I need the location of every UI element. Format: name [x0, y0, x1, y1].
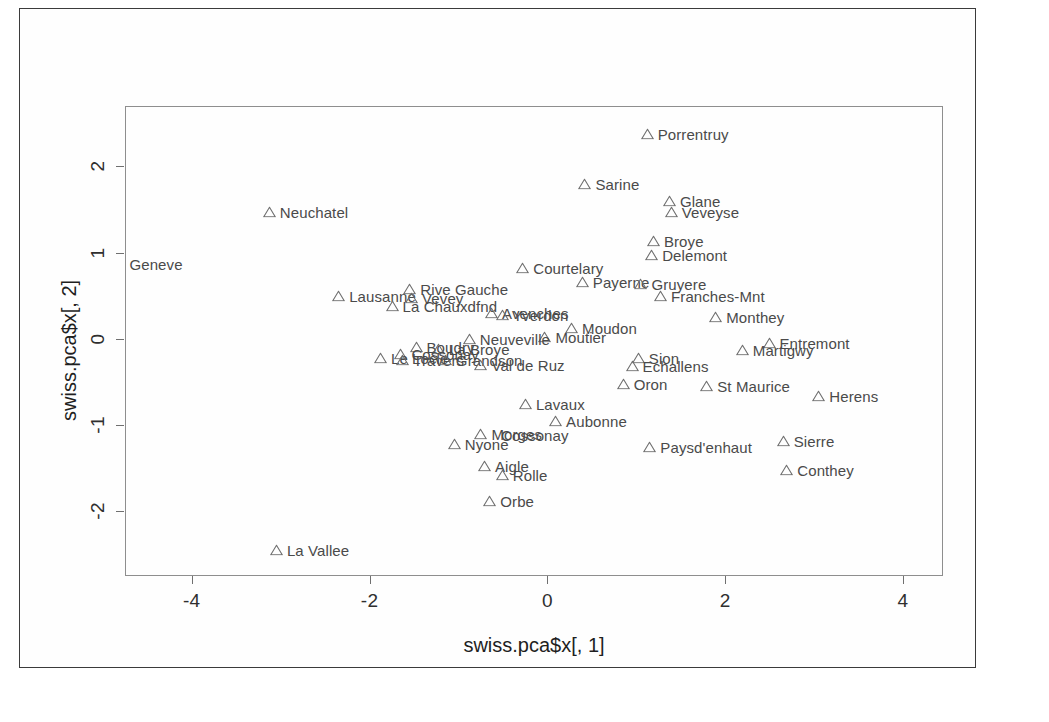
y-tick-mark: [116, 339, 124, 340]
data-point[interactable]: La Vallee: [270, 543, 349, 558]
x-tick-mark: [192, 576, 193, 584]
y-tick-mark: [116, 425, 124, 426]
x-tick-label: 4: [898, 590, 909, 612]
data-point-label: Delemont: [662, 248, 727, 263]
data-point-label: Nyone: [465, 437, 509, 452]
data-point[interactable]: Orbe: [483, 493, 534, 508]
triangle-marker-icon: [576, 276, 589, 287]
figure-frame: -4-2024 -2-1012 PorrentruySarineGlaneVev…: [19, 8, 976, 668]
data-point-label: Geneve: [129, 256, 182, 271]
data-point-label: Lavaux: [536, 396, 585, 411]
data-point-label: Moutier: [555, 330, 606, 345]
triangle-marker-icon: [647, 236, 660, 247]
triangle-marker-icon: [478, 461, 491, 472]
data-point-label: Yverdon: [513, 307, 569, 322]
data-point[interactable]: Oron: [617, 376, 668, 391]
data-point[interactable]: Rolle: [496, 468, 548, 483]
triangle-marker-icon: [519, 398, 532, 409]
data-point[interactable]: Nyone: [448, 437, 509, 452]
triangle-marker-icon: [332, 290, 345, 301]
plot-area[interactable]: -4-2024 -2-1012 PorrentruySarineGlaneVev…: [20, 9, 975, 667]
triangle-marker-icon: [665, 207, 678, 218]
data-point[interactable]: Echallens: [626, 359, 709, 374]
data-point[interactable]: Martigwy: [736, 343, 814, 358]
triangle-marker-icon: [496, 309, 509, 320]
data-point[interactable]: Geneve: [129, 256, 182, 271]
data-point[interactable]: Sarine: [578, 176, 639, 191]
triangle-marker-icon: [448, 439, 461, 450]
y-tick-mark: [116, 511, 124, 512]
x-tick-label: 2: [720, 590, 731, 612]
data-point[interactable]: St Maurice: [700, 379, 790, 394]
y-axis-title: swiss.pca$x[, 2]: [58, 280, 81, 421]
data-point[interactable]: Monthey: [709, 310, 784, 325]
triangle-marker-icon: [496, 470, 509, 481]
triangle-marker-icon: [777, 435, 790, 446]
data-point[interactable]: Franches-Mnt: [654, 288, 765, 303]
data-point-label: La Chauxdfnd: [403, 299, 498, 314]
data-point[interactable]: La Chauxdfnd: [386, 299, 498, 314]
triangle-marker-icon: [709, 312, 722, 323]
data-point[interactable]: Paysd'enhaut: [643, 439, 752, 454]
triangle-marker-icon: [641, 128, 654, 139]
x-axis-title: swiss.pca$x[, 1]: [463, 634, 604, 657]
triangle-marker-icon: [474, 359, 487, 370]
data-point-label: Sierre: [794, 433, 835, 448]
x-tick-label: -4: [183, 590, 200, 612]
y-tick-mark: [116, 253, 124, 254]
data-point[interactable]: Neuchatel: [263, 205, 348, 220]
data-point[interactable]: Porrentruy: [641, 126, 729, 141]
triangle-marker-icon: [439, 355, 452, 366]
data-point-label: Paysd'enhaut: [660, 439, 752, 454]
triangle-marker-icon: [626, 361, 639, 372]
triangle-marker-icon: [516, 263, 529, 274]
data-point[interactable]: Sierre: [777, 433, 835, 448]
y-tick-mark: [116, 166, 124, 167]
data-point-label: Conthey: [797, 462, 854, 477]
data-point-label: Oron: [634, 376, 668, 391]
triangle-marker-icon: [654, 290, 667, 301]
data-point-label: Val de Ruz: [491, 357, 564, 372]
x-tick-mark: [370, 576, 371, 584]
triangle-marker-icon: [549, 415, 562, 426]
data-point-label: Monthey: [726, 310, 784, 325]
triangle-marker-icon: [617, 378, 630, 389]
triangle-marker-icon: [270, 545, 283, 556]
data-point-label: Cossonay: [501, 428, 569, 443]
x-tick-label: 0: [542, 590, 553, 612]
triangle-marker-icon: [374, 352, 387, 363]
data-point-label: Orbe: [500, 493, 534, 508]
triangle-marker-icon: [736, 345, 749, 356]
data-point-label: Martigwy: [753, 343, 814, 358]
y-tick-label: 1: [87, 247, 109, 258]
triangle-marker-icon: [578, 178, 591, 189]
data-point-label: Porrentruy: [658, 126, 729, 141]
data-point-label: Herens: [829, 388, 878, 403]
data-point[interactable]: Yverdon: [496, 307, 569, 322]
data-point-label: Veveyse: [682, 205, 739, 220]
y-tick-label: 0: [87, 333, 109, 344]
data-point[interactable]: Val de Ruz: [474, 357, 564, 372]
triangle-marker-icon: [483, 495, 496, 506]
triangle-marker-icon: [700, 381, 713, 392]
triangle-marker-icon: [386, 301, 399, 312]
data-point[interactable]: Lavaux: [519, 396, 585, 411]
triangle-marker-icon: [396, 354, 409, 365]
data-point-label: Sarine: [595, 176, 639, 191]
data-point[interactable]: Veveyse: [665, 205, 739, 220]
data-point[interactable]: Cossonay: [501, 428, 569, 443]
data-point-label: Echallens: [643, 359, 709, 374]
y-tick-label: -2: [87, 503, 109, 520]
y-tick-label: -1: [87, 416, 109, 433]
data-point[interactable]: Courtelary: [516, 261, 603, 276]
y-tick-label: 2: [87, 161, 109, 172]
data-point[interactable]: Conthey: [780, 462, 854, 477]
data-point-label: St Maurice: [717, 379, 790, 394]
data-point[interactable]: Delemont: [645, 248, 727, 263]
triangle-marker-icon: [634, 278, 647, 289]
data-point[interactable]: Herens: [812, 388, 878, 403]
x-tick-mark: [903, 576, 904, 584]
data-point-label: Rolle: [513, 468, 548, 483]
data-point-label: Aubonne: [566, 413, 627, 428]
data-point-label: La Vallee: [287, 543, 349, 558]
